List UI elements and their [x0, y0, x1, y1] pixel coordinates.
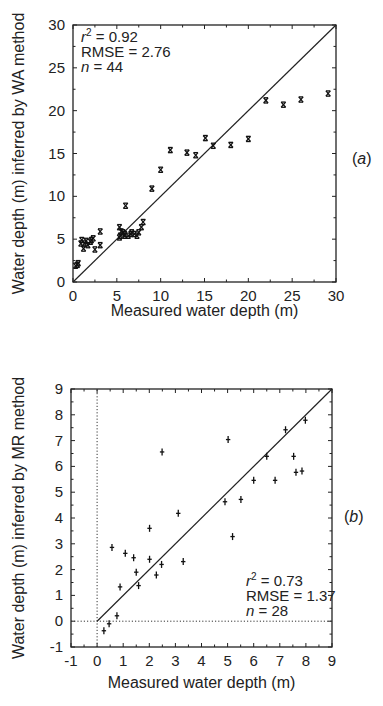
stats-line: n = 44: [81, 58, 123, 75]
plus-marker: [223, 498, 227, 505]
plus-marker: [107, 620, 111, 627]
x-marker: [139, 225, 143, 230]
stats-annotation: r2 = 0.73RMSE = 1.37n = 28: [246, 571, 336, 619]
y-tick-label: 15: [48, 145, 65, 162]
plus-marker: [154, 572, 158, 579]
plus-marker: [181, 558, 185, 565]
x-marker: [98, 229, 102, 234]
plus-marker: [230, 533, 234, 540]
chart-panel-a: 051015202530051015202530Measured water d…: [10, 13, 372, 319]
x-marker: [185, 150, 189, 155]
x-marker: [229, 142, 233, 147]
y-tick-label: 0: [55, 612, 63, 629]
y-tick-label: 4: [55, 509, 63, 526]
x-tick-label: 0: [69, 287, 77, 304]
x-axis-label: Measured water depth (m): [108, 674, 296, 691]
plus-marker: [147, 556, 151, 563]
y-tick-label: 8: [55, 406, 63, 423]
plus-marker: [176, 510, 180, 517]
x-tick-label: 4: [197, 652, 205, 669]
plus-marker: [160, 448, 164, 455]
x-tick-label: 9: [328, 652, 336, 669]
y-tick-label: 3: [55, 535, 63, 552]
plus-marker: [102, 627, 106, 634]
panel-label: (a): [352, 150, 372, 167]
plus-marker: [283, 426, 287, 433]
stats-line: n = 28: [246, 602, 288, 619]
y-tick-label: 20: [48, 102, 65, 119]
plus-marker: [134, 569, 138, 576]
plus-marker: [136, 582, 140, 589]
x-tick-label: 8: [302, 652, 310, 669]
y-tick-label: 0: [57, 273, 65, 290]
plus-marker: [159, 561, 163, 568]
x-marker: [168, 147, 172, 152]
plus-marker: [273, 477, 277, 484]
figure: 051015202530051015202530Measured water d…: [0, 0, 383, 706]
plus-marker: [252, 477, 256, 484]
plus-marker: [291, 453, 295, 460]
chart-panel-b: -10123456789-10123456789Measured water d…: [10, 377, 364, 691]
plus-marker: [115, 612, 119, 619]
x-marker: [281, 102, 285, 107]
plus-marker: [147, 525, 151, 532]
y-tick-label: 30: [48, 16, 65, 33]
x-tick-label: 0: [93, 652, 101, 669]
x-marker: [81, 246, 85, 251]
plus-marker: [294, 469, 298, 476]
plus-marker: [226, 436, 230, 443]
x-tick-label: 2: [145, 652, 153, 669]
y-tick-label: 7: [55, 432, 63, 449]
y-tick-label: 1: [55, 586, 63, 603]
caption-fragment: [0, 696, 383, 706]
x-tick-label: 1: [119, 652, 127, 669]
x-marker: [246, 136, 250, 141]
y-tick-label: 9: [55, 380, 63, 397]
x-marker: [123, 203, 127, 208]
x-axis-label: Measured water depth (m): [111, 302, 299, 319]
y-tick-label: -1: [50, 638, 63, 655]
x-marker: [98, 243, 102, 248]
y-axis-label: Water depth (m) inferred by WA method: [10, 13, 27, 295]
x-marker: [194, 153, 198, 158]
x-marker: [150, 186, 154, 191]
plus-marker: [265, 453, 269, 460]
stats-annotation: r2 = 0.92RMSE = 2.76n = 44: [81, 27, 171, 75]
panel-label: (b): [344, 508, 364, 525]
x-marker: [93, 247, 97, 252]
y-tick-label: 6: [55, 457, 63, 474]
x-marker: [141, 219, 145, 224]
y-axis-label: Water depth (m) inferred by MR method: [10, 377, 27, 659]
x-marker: [299, 97, 303, 102]
x-marker: [326, 91, 330, 96]
x-marker: [264, 98, 268, 103]
plus-marker: [118, 583, 122, 590]
x-tick-label: 30: [328, 287, 345, 304]
x-tick-label: 6: [250, 652, 258, 669]
plus-marker: [303, 417, 307, 424]
plus-marker: [131, 554, 135, 561]
y-tick-label: 5: [55, 483, 63, 500]
y-tick-label: 10: [48, 187, 65, 204]
plus-marker: [123, 550, 127, 557]
plus-marker: [239, 496, 243, 503]
x-marker: [158, 167, 162, 172]
x-tick-label: -1: [64, 652, 77, 669]
y-tick-label: 25: [48, 59, 65, 76]
x-tick-label: 5: [223, 652, 231, 669]
x-tick-label: 7: [276, 652, 284, 669]
x-tick-label: 3: [171, 652, 179, 669]
plus-marker: [300, 468, 304, 475]
plus-marker: [110, 544, 114, 551]
y-tick-label: 2: [55, 561, 63, 578]
x-marker: [203, 135, 207, 140]
y-tick-label: 5: [57, 230, 65, 247]
